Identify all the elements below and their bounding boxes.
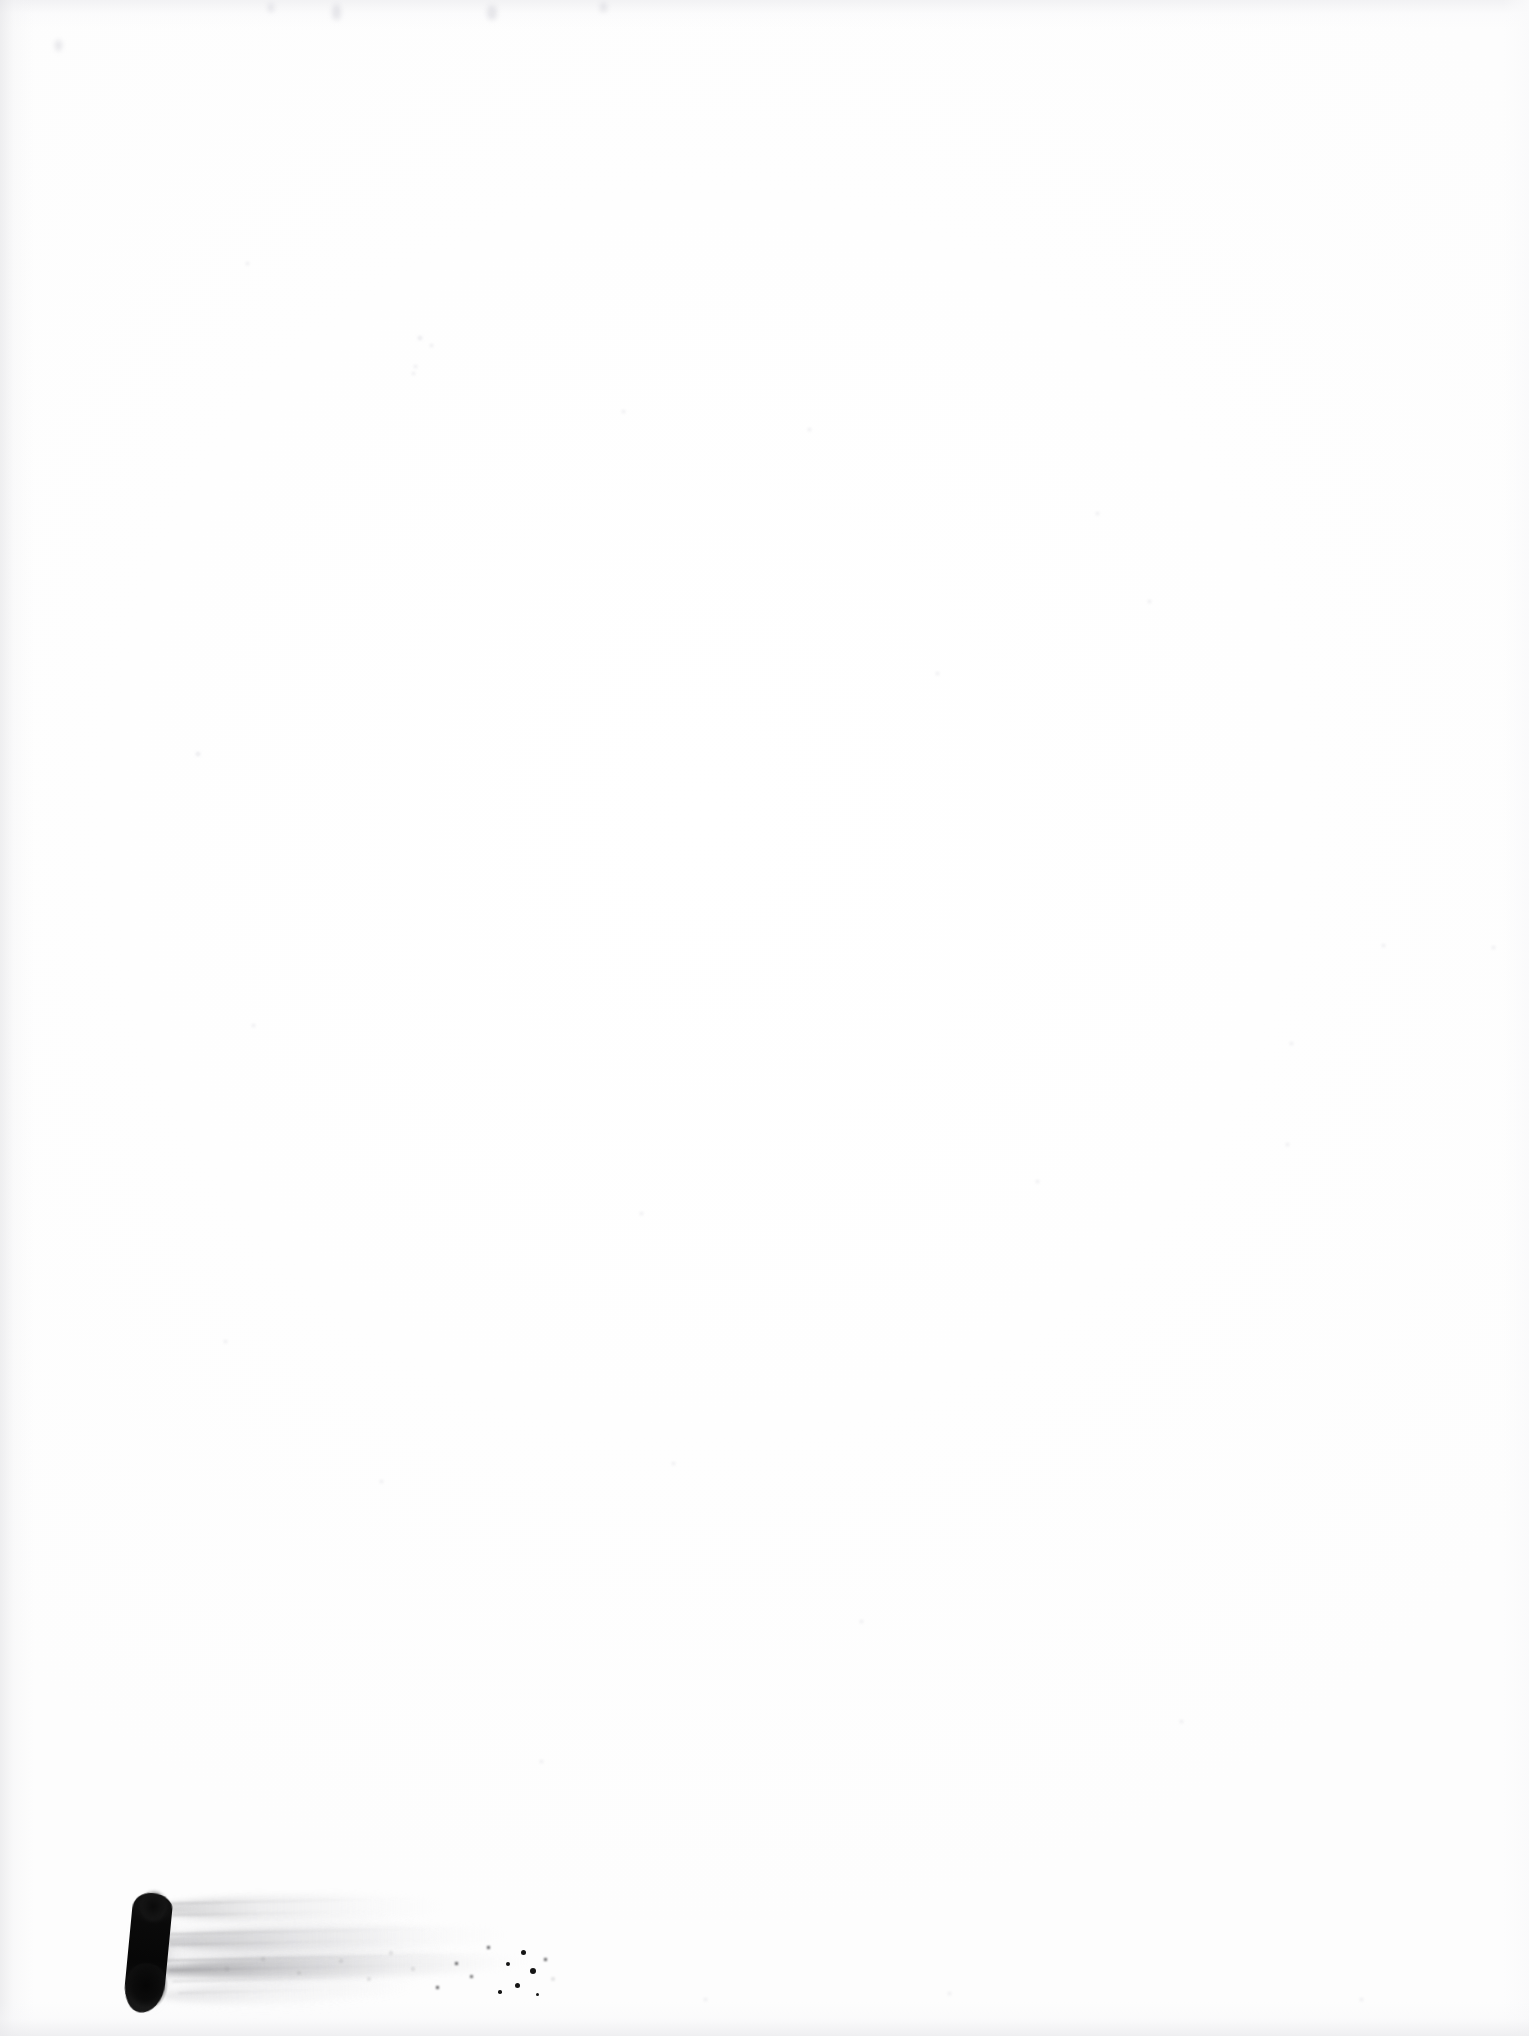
page-right-edge-highlight (1503, 0, 1529, 2036)
page-bottom-edge-shadow (0, 2002, 1529, 2036)
page-top-edge-shadow (0, 0, 1529, 30)
scanned-page (0, 0, 1529, 2036)
page-left-edge-shadow (0, 0, 34, 2036)
paper-background (0, 0, 1529, 2036)
